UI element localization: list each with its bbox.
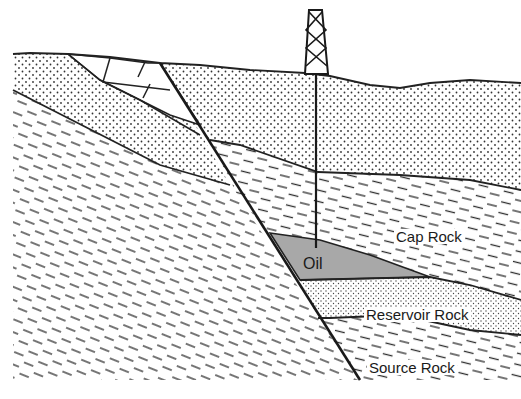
drilling-derrick <box>305 10 328 74</box>
reservoir-rock-label: Reservoir Rock <box>364 307 471 322</box>
oil-label: Oil <box>303 256 323 272</box>
source-rock-label: Source Rock <box>367 360 457 375</box>
cap-rock-label: Cap Rock <box>394 229 464 244</box>
geological-cross-section <box>0 0 521 399</box>
